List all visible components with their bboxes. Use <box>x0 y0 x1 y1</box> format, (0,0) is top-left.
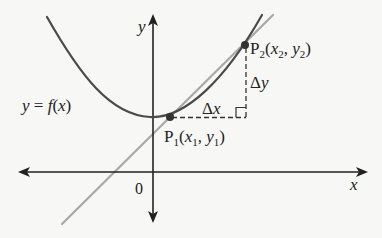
function-curve <box>47 15 262 117</box>
point-p1-dot <box>166 113 174 121</box>
delta-y-label: Δy <box>250 73 269 92</box>
point-p2-dot <box>241 41 249 49</box>
curve-label: y = f(x) <box>20 96 71 115</box>
origin-label: 0 <box>135 180 143 197</box>
delta-x-label: Δx <box>202 99 221 118</box>
y-axis-label: y <box>136 17 146 36</box>
secant-line-diagram: y x 0 y = f(x) P1(x1, y1) P2(x2, y2) Δx … <box>0 0 382 238</box>
point-p1-label: P1(x1, y1) <box>164 127 225 148</box>
x-axis-label: x <box>349 175 358 194</box>
point-p2-label: P2(x2, y2) <box>250 39 311 60</box>
right-angle-marker <box>236 108 246 118</box>
